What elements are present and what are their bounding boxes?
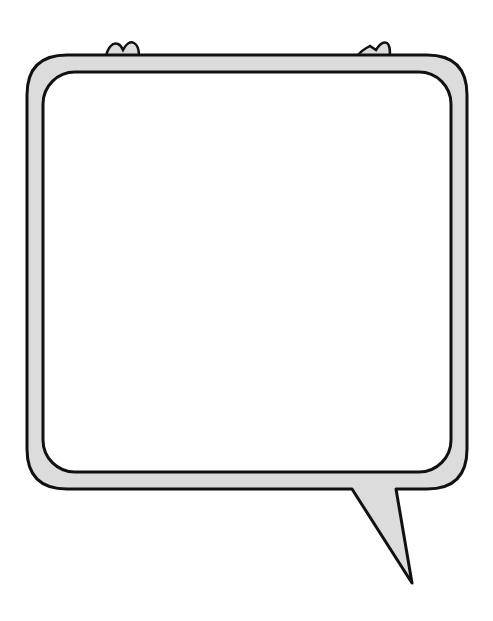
bubble-interior (43, 72, 451, 472)
speech-bubble-graphic (0, 0, 493, 621)
